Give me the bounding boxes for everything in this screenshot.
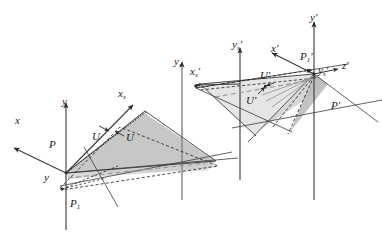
label-point-p1-prime: P1′ [300, 51, 313, 64]
label-vector-u-prime-upper: U′ [260, 70, 270, 81]
label-axis-y: y [62, 96, 67, 107]
label-point-y-low: y [44, 172, 49, 183]
label-point-p1-prime-prime: ′ [310, 50, 312, 62]
label-axis-ys-prime-left: ys′ [232, 39, 242, 52]
label-point-p1-subscript: 1 [77, 203, 81, 211]
right-frame-group [194, 22, 382, 200]
label-axis-xs-prime-prime: ′ [198, 65, 200, 77]
label-axis-ys-prime-left-prime: ′ [240, 38, 242, 50]
label-axis-ys-prime-right: ys′ [318, 65, 328, 78]
label-axis-x-prime: x′ [271, 43, 278, 54]
label-axis-xs-subscript: s [123, 93, 126, 101]
left-point-p-dot [65, 172, 68, 175]
left-u-vector-left [99, 126, 109, 131]
label-axis-z-prime: z′ [342, 60, 349, 71]
figure-canvas [0, 0, 382, 242]
label-point-p1-base: P [70, 197, 77, 209]
label-axis-ys-prime-right-prime: ′ [326, 64, 328, 76]
label-point-p-prime: P′ [331, 100, 340, 111]
label-axis-y-prime: y′ [310, 12, 317, 23]
label-point-p: P [49, 139, 56, 150]
right-depth-line-d [314, 74, 378, 122]
left-plane-fill [66, 112, 215, 173]
right-point-p-prime-dot [313, 73, 316, 76]
right-u-prime-marker [264, 85, 267, 88]
label-point-p1: P1 [70, 198, 80, 211]
label-point-p1-prime-base: P [300, 50, 307, 62]
right-xs-prime-endpoint [194, 84, 198, 88]
label-axis-x: x [15, 115, 20, 126]
label-axis-xs-prime: xs′ [190, 66, 200, 79]
label-vector-u-left: U [92, 131, 100, 142]
label-vector-u-right: U [126, 132, 134, 143]
geometry-figure: x y P y P1 xs ys U U y′ ys′ x′ P1′ ys′ z… [0, 0, 382, 242]
label-vector-u-prime-lower: U′ [246, 95, 256, 106]
label-axis-xs: xs [118, 88, 126, 101]
label-axis-ys-subscript: s [179, 61, 182, 69]
left-x-axis [14, 148, 66, 173]
right-point-p1-prime-marker [307, 69, 311, 73]
label-axis-ys: ys [174, 56, 182, 69]
